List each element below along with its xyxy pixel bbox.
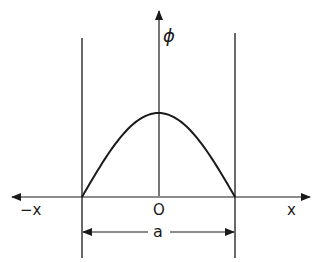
width-label: a <box>153 222 163 241</box>
x-positive-label: x <box>287 201 296 219</box>
origin-label: O <box>153 201 165 219</box>
x-negative-label: −x <box>20 201 42 219</box>
phi-label: ϕ <box>163 25 175 46</box>
particle-in-box-diagram: ϕ x −x O a <box>0 0 319 262</box>
